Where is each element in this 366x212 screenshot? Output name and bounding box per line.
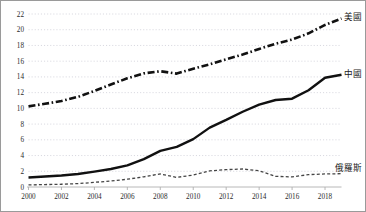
y-axis-labels-group: 0246810121416182022: [17, 11, 25, 192]
y-axis-label-20: 20: [17, 26, 25, 34]
chart-plot-area: 0246810121416182022 20002002200420062008…: [1, 1, 366, 212]
y-axis-label-0: 0: [20, 184, 24, 192]
x-axis-label-2008: 2008: [153, 193, 168, 201]
y-axis-label-10: 10: [17, 105, 25, 113]
series-line-1: [29, 75, 342, 178]
x-axis-label-2016: 2016: [285, 193, 300, 201]
y-axis-label-14: 14: [17, 73, 25, 81]
y-axis-label-8: 8: [20, 121, 24, 129]
series-label-us: 美國: [344, 11, 362, 22]
x-axis-label-2018: 2018: [318, 193, 333, 201]
y-axis-label-6: 6: [20, 136, 24, 144]
chart-frame: 0246810121416182022 20002002200420062008…: [0, 0, 366, 212]
x-axis-labels-group: 2000200220042006200820102012201420162018: [21, 193, 332, 201]
x-axis-label-2000: 2000: [21, 193, 36, 201]
y-axis-label-22: 22: [17, 11, 25, 19]
x-axis-label-2002: 2002: [54, 193, 69, 201]
x-axis-label-2010: 2010: [186, 193, 201, 201]
x-axis-label-2014: 2014: [252, 193, 267, 201]
x-axis-label-2012: 2012: [219, 193, 234, 201]
x-axis-label-2006: 2006: [120, 193, 135, 201]
series-line-0: [29, 18, 342, 106]
y-axis-label-16: 16: [17, 58, 25, 66]
x-axis-label-2004: 2004: [87, 193, 102, 201]
series-lines-group: [29, 18, 342, 184]
series-label-russia: 俄羅斯: [335, 162, 362, 173]
series-label-china: 中國: [344, 68, 362, 79]
y-axis-label-18: 18: [17, 42, 25, 50]
series-labels-group: 美國中國俄羅斯: [335, 11, 362, 172]
line-chart: 0246810121416182022 20002002200420062008…: [1, 1, 366, 212]
y-axis-label-12: 12: [17, 89, 25, 97]
y-axis-label-2: 2: [20, 168, 24, 176]
y-axis-label-4: 4: [20, 152, 24, 160]
